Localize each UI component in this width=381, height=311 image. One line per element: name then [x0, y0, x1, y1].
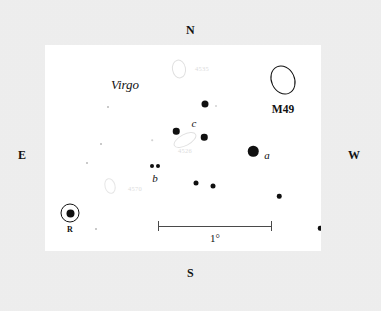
star-field-faint: [107, 106, 109, 108]
star-field-faint: [151, 139, 153, 141]
star-field: [202, 101, 209, 108]
star-b-secondary: [156, 164, 160, 168]
galaxy-ngc4526-label: 4526: [178, 147, 192, 154]
reference-star-label: R: [67, 225, 73, 234]
compass-east-label: E: [18, 148, 27, 163]
scale-bar-label: 1°: [210, 232, 220, 244]
star-field: [318, 226, 321, 231]
scale-bar-line: [158, 226, 272, 227]
star-field: [173, 128, 180, 135]
scale-bar: 1°: [158, 221, 272, 231]
galaxy-ngc4535: [170, 58, 187, 79]
compass-west-label: W: [348, 148, 361, 163]
star-chart: N S E W Virgo M49 4535 4526 4570 a b c: [0, 0, 381, 311]
sky-field-panel: Virgo M49 4535 4526 4570 a b c: [45, 45, 321, 251]
constellation-label: Virgo: [111, 77, 139, 93]
star-field-faint: [95, 228, 97, 230]
star-c-label: c: [192, 117, 197, 129]
scale-bar-tick-right: [271, 221, 272, 231]
galaxy-m49-label: M49: [272, 103, 294, 115]
compass-south-label: S: [0, 266, 381, 281]
galaxy-ngc4535-label: 4535: [195, 65, 209, 72]
star-field: [201, 134, 208, 141]
scale-bar-tick-left: [158, 221, 159, 231]
star-field-faint: [100, 143, 102, 145]
galaxy-m49: [266, 61, 300, 98]
reference-star-marker: [61, 204, 80, 223]
star-b-label: b: [152, 172, 158, 184]
compass-north-label: N: [0, 23, 381, 38]
star-a-label: a: [264, 149, 270, 161]
galaxy-ngc4570: [103, 177, 118, 195]
star-a: [248, 146, 259, 157]
star-field: [211, 184, 216, 189]
galaxy-ngc4570-label: 4570: [128, 185, 142, 192]
star-field-faint: [86, 162, 88, 164]
reference-star-core: [66, 209, 74, 217]
star-field: [215, 105, 217, 107]
star-b-primary: [150, 164, 154, 168]
star-field: [277, 194, 282, 199]
star-field: [194, 181, 199, 186]
